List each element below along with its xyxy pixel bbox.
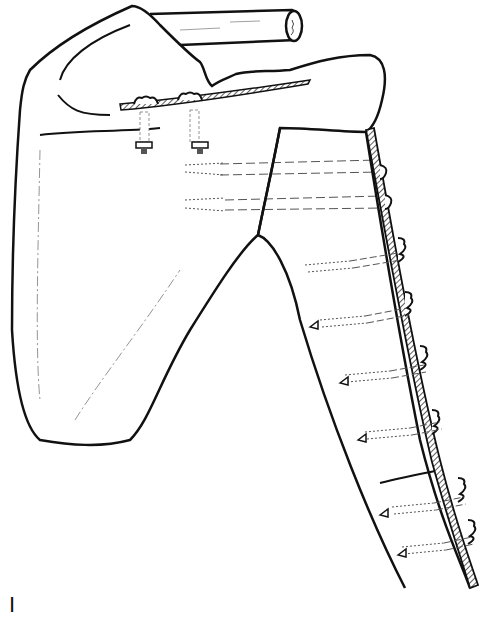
shoulder-arthrodesis-illustration — [0, 0, 496, 625]
humeral-plate — [366, 128, 478, 588]
scapula — [12, 6, 385, 445]
panel-label: I — [9, 594, 15, 616]
humerus — [258, 128, 470, 588]
